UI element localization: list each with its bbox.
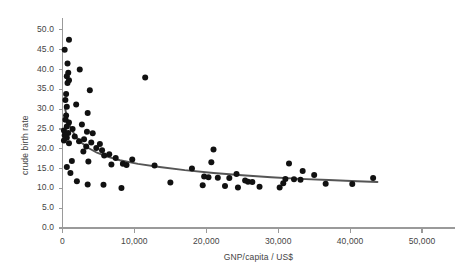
data-point: [67, 170, 73, 176]
data-point: [208, 159, 214, 165]
y-tick-label: 50.0: [24, 24, 54, 34]
data-point: [72, 133, 78, 139]
data-point: [65, 61, 71, 67]
data-point: [370, 175, 376, 181]
data-point: [69, 158, 75, 164]
data-point: [65, 80, 71, 86]
axis-lines: [63, 18, 456, 228]
data-point: [286, 160, 292, 166]
y-tick-label: 10.0: [24, 182, 54, 192]
data-point: [90, 130, 96, 136]
data-point: [222, 183, 228, 189]
y-tick-label: 5.0: [24, 202, 54, 212]
data-point: [74, 178, 80, 184]
data-point: [62, 47, 68, 53]
data-point: [211, 147, 217, 153]
data-point: [85, 181, 91, 187]
data-point: [235, 185, 241, 191]
data-point: [349, 181, 355, 187]
y-tick-label: 35.0: [24, 83, 54, 93]
data-point: [113, 155, 119, 161]
data-point: [87, 87, 93, 93]
data-point: [66, 140, 72, 146]
data-point: [76, 138, 82, 144]
data-point: [277, 185, 283, 191]
y-axis-title: crude birth rate: [20, 115, 30, 175]
data-point: [79, 122, 85, 128]
y-tick-label: 30.0: [24, 103, 54, 113]
scatter-chart: 0.05.010.015.020.025.030.035.040.045.050…: [0, 0, 467, 272]
x-tick-label: 20,000: [176, 236, 236, 246]
data-point: [300, 168, 306, 174]
data-point: [124, 162, 130, 168]
tick-marks: [59, 30, 423, 233]
data-point: [93, 145, 99, 151]
x-tick-label: 40,000: [320, 236, 380, 246]
data-point: [108, 162, 114, 168]
data-point: [84, 129, 90, 135]
data-point: [73, 101, 79, 107]
data-point: [234, 171, 240, 177]
y-tick-label: 0.0: [24, 222, 54, 232]
data-point: [64, 104, 70, 110]
data-point: [129, 156, 135, 162]
data-point: [215, 175, 221, 181]
data-point: [100, 182, 106, 188]
data-point: [85, 158, 91, 164]
data-point: [142, 74, 148, 80]
y-tick-label: 45.0: [24, 44, 54, 54]
data-point: [118, 185, 124, 191]
data-point: [291, 176, 297, 182]
data-point: [311, 172, 317, 178]
x-tick-label: 30,000: [248, 236, 308, 246]
data-point: [61, 137, 67, 143]
y-tick-label: 40.0: [24, 64, 54, 74]
data-point: [257, 184, 263, 190]
data-point: [298, 177, 304, 183]
data-point: [200, 182, 206, 188]
data-point: [152, 162, 158, 168]
data-point: [226, 175, 232, 181]
data-point: [167, 179, 173, 185]
data-point: [249, 179, 255, 185]
data-point: [99, 147, 105, 153]
data-point: [189, 166, 195, 172]
data-points: [61, 37, 376, 191]
x-tick-label: 50,000: [392, 236, 452, 246]
x-tick-label: 0: [33, 236, 93, 246]
data-point: [62, 97, 68, 103]
data-point: [66, 37, 72, 43]
data-point: [85, 110, 91, 116]
data-point: [106, 151, 112, 157]
data-point: [80, 149, 86, 155]
data-point: [83, 143, 89, 149]
data-point: [64, 164, 70, 170]
data-point: [205, 174, 211, 180]
data-point: [101, 153, 107, 159]
plot-area: [0, 0, 467, 272]
x-axis-title: GNP/capita / US$: [0, 252, 467, 262]
data-point: [323, 181, 329, 187]
trend-line: [65, 107, 378, 182]
data-point: [88, 139, 94, 145]
x-tick-label: 10,000: [104, 236, 164, 246]
data-point: [77, 67, 83, 73]
data-point: [63, 91, 69, 97]
